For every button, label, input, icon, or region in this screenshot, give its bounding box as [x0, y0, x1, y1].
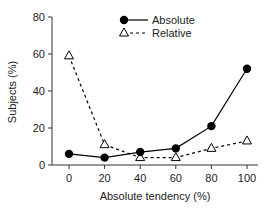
circle-marker-icon: [207, 122, 215, 130]
triangle-marker-icon: [171, 153, 180, 161]
legend: AbsoluteRelative: [120, 14, 195, 39]
circle-marker-icon: [100, 153, 108, 161]
circle-marker-icon: [120, 16, 128, 24]
y-axis-label: Subjects (%): [6, 61, 18, 123]
circle-marker-icon: [243, 65, 251, 73]
y-tick-label: 0: [39, 159, 45, 171]
legend-label: Absolute: [152, 14, 195, 26]
x-tick-label: 80: [205, 172, 217, 184]
chart-svg: 020406080020406080100 AbsoluteRelative A…: [0, 0, 274, 213]
circle-marker-icon: [172, 144, 180, 152]
legend-item-absolute: Absolute: [120, 14, 195, 26]
line-chart: 020406080020406080100 AbsoluteRelative A…: [0, 0, 274, 213]
y-tick-label: 60: [33, 48, 45, 60]
x-tick-label: 0: [66, 172, 72, 184]
triangle-marker-icon: [100, 140, 109, 148]
series-line: [69, 69, 247, 158]
circle-marker-icon: [136, 148, 144, 156]
x-axis-label: Absolute tendency (%): [100, 190, 211, 202]
legend-label: Relative: [152, 27, 192, 39]
triangle-marker-icon: [65, 51, 74, 59]
triangle-marker-icon: [207, 143, 216, 151]
legend-item-relative: Relative: [120, 27, 192, 39]
y-tick-label: 40: [33, 85, 45, 97]
triangle-marker-icon: [120, 28, 129, 36]
x-tick-label: 60: [170, 172, 182, 184]
circle-marker-icon: [65, 150, 73, 158]
series-absolute: [65, 65, 251, 162]
series-layer: [65, 51, 252, 162]
series-line: [69, 56, 247, 158]
x-tick-label: 40: [134, 172, 146, 184]
x-tick-label: 20: [98, 172, 110, 184]
y-tick-label: 20: [33, 122, 45, 134]
triangle-marker-icon: [243, 136, 252, 144]
x-tick-label: 100: [238, 172, 256, 184]
y-tick-label: 80: [33, 11, 45, 23]
